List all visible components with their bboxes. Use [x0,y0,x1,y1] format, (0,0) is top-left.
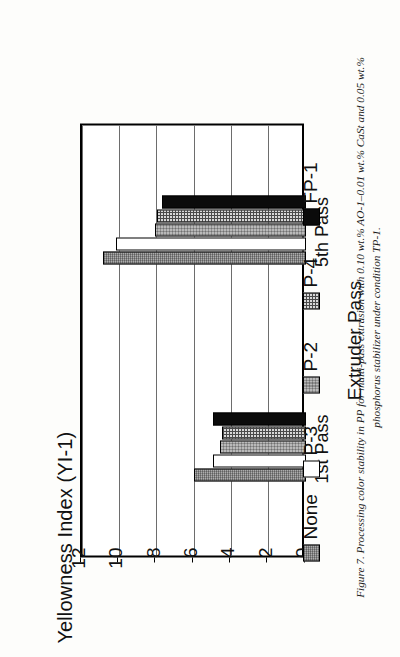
bar-p-3-1st-pass [213,454,306,467]
legend-item-p-2[interactable]: P-2 [300,341,322,393]
legend-item-p-4[interactable]: P-4 [300,257,322,309]
legend-swatch-p-3-icon [303,460,320,477]
y-axis-tick-label: 4 [217,547,239,587]
bar-none-1st-pass [194,468,306,481]
legend-swatch-p-2-icon [303,376,320,393]
figure-block: Yellowness Index (YI-1) 024681012 1st Pa… [0,0,400,657]
gridline [82,125,83,555]
legend-swatch-p-4-icon [303,292,320,309]
legend-item-p-3[interactable]: P-3 [300,425,322,477]
plot-frame [80,123,304,557]
bar-p-2-5th-pass [155,223,306,236]
legend-item-none[interactable]: None [300,494,322,561]
figure-rotated-stage: Yellowness Index (YI-1) 024681012 1st Pa… [0,0,400,657]
gridline [194,125,195,555]
y-axis-tick-label: 6 [180,547,202,587]
gridline [119,125,120,555]
legend-swatch-none-icon [303,544,320,561]
legend-label: P-2 [300,341,322,371]
y-axis-tick-label: 12 [68,547,90,587]
y-axis-tick-label: 8 [143,547,165,587]
bar-none-5th-pass [103,251,306,264]
legend-label: P-3 [300,425,322,455]
bar-fp-1-1st-pass [213,412,306,425]
gridline [268,125,269,555]
legend-item-fp-1[interactable]: FP-1 [300,162,322,225]
chart-legend: NoneP-3P-2P-4FP-1 [300,141,326,561]
legend-label: P-4 [300,257,322,287]
bar-p-3-5th-pass [116,237,306,250]
gridline [156,125,157,555]
y-axis-tick-label: 10 [105,547,127,587]
y-axis-tick-label: 2 [255,547,277,587]
bar-p-4-5th-pass [157,209,306,222]
legend-label: FP-1 [300,162,322,203]
legend-swatch-fp-1-icon [303,208,320,225]
legend-label: None [300,494,322,539]
bar-fp-1-5th-pass [162,195,306,208]
bar-p-4-1st-pass [222,426,306,439]
gridline [231,125,232,555]
bar-p-2-1st-pass [220,440,306,453]
figure-caption: Figure 7. Processing color stability in … [352,37,385,617]
